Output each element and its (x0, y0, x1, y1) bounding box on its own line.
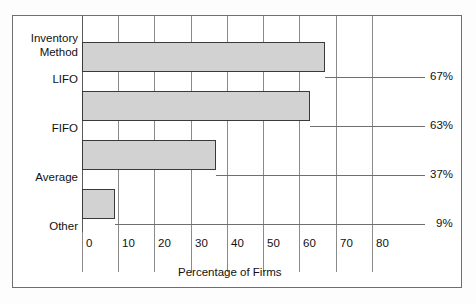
xtick-label-80: 80 (376, 237, 389, 249)
value-label-lifo: 67% (430, 70, 453, 82)
category-axis-title: Inventory Method (12, 32, 78, 59)
xtick-label-70: 70 (340, 237, 353, 249)
chart-figure: Inventory Method LIFO FIFO Average Other… (0, 0, 476, 304)
gridline-80 (372, 16, 373, 232)
gridline-lower-0 (82, 232, 83, 272)
value-label-other: 9% (436, 217, 453, 229)
xtick-label-20: 20 (158, 237, 171, 249)
xtick-label-60: 60 (303, 237, 316, 249)
category-label-average: Average (12, 171, 78, 184)
gridline-lower-10 (118, 232, 119, 272)
leader-line-lifo (325, 77, 425, 78)
leader-line-average (216, 175, 425, 176)
category-label-other: Other (12, 220, 78, 233)
category-label-lifo: LIFO (12, 73, 78, 86)
leader-line-other (115, 224, 425, 225)
value-label-fifo: 63% (430, 119, 453, 131)
bar-fifo (82, 91, 310, 121)
gridline-lower-70 (336, 232, 337, 272)
value-label-average: 37% (430, 168, 453, 180)
x-axis-title: Percentage of Firms (178, 266, 282, 278)
gridline-lower-20 (154, 232, 155, 272)
gridline-70 (336, 16, 337, 232)
bar-average (82, 140, 216, 170)
category-label-fifo: FIFO (12, 122, 78, 135)
xtick-label-40: 40 (231, 237, 244, 249)
plot-area (82, 16, 372, 232)
bar-lifo (82, 42, 325, 72)
xtick-label-30: 30 (195, 237, 208, 249)
gridline-lower-60 (299, 232, 300, 272)
gridline-lower-80 (372, 232, 373, 272)
bar-other (82, 189, 115, 219)
xtick-label-10: 10 (122, 237, 135, 249)
xtick-label-50: 50 (267, 237, 280, 249)
xtick-label-0: 0 (86, 237, 92, 249)
leader-line-fifo (310, 126, 425, 127)
